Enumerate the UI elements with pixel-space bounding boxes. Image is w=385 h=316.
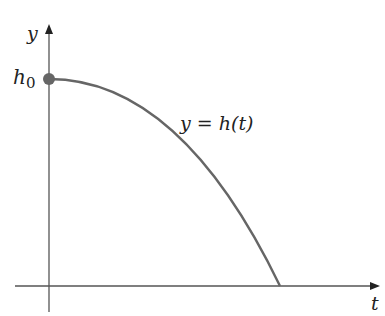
x-axis-label: t (371, 292, 379, 314)
initial-point-marker (43, 73, 55, 85)
x-axis (15, 282, 380, 290)
curve-label: y = h(t) (179, 112, 253, 134)
height-vs-time-figure: y t h0 y = h(t) (0, 0, 385, 316)
height-curve (49, 79, 280, 286)
y-axis (45, 24, 53, 312)
y-axis-arrow-icon (45, 24, 53, 34)
initial-height-label: h0 (13, 65, 35, 92)
x-axis-arrow-icon (370, 282, 380, 290)
y-axis-label: y (26, 22, 38, 44)
